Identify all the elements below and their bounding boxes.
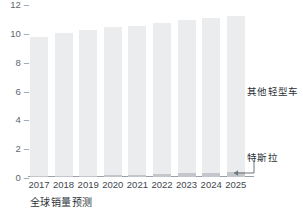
bar-group [178,20,196,177]
x-axis-tick-label: 2025 [224,179,248,190]
x-axis-tick-label: 2020 [101,179,125,190]
bar-group [202,18,220,177]
bar-segment-tesla [30,176,48,177]
bar-group [227,16,245,177]
bar-segment-other-light-vehicles [178,20,196,174]
bar-segment-tesla [55,176,73,177]
y-axis-tick-mark: – [24,27,29,38]
bar-group [104,27,122,177]
y-axis-tick-2: 2– [15,143,29,154]
x-axis-tick-label: 2018 [52,179,76,190]
x-axis-tick-label: 2024 [199,179,223,190]
tesla-leader-line-icon [228,160,258,178]
bar-segment-tesla [79,176,97,177]
bar-segment-other-light-vehicles [55,33,73,176]
series-label-other-light-vehicles: 其他轻型车 [247,84,299,98]
bar-group [30,37,48,177]
y-axis-tick-8: 8– [15,56,29,67]
bar-group [55,33,73,177]
y-axis-tick-4: 4– [15,114,29,125]
y-axis-tick-value: 10 [10,27,21,38]
y-axis-tick-mark: – [24,143,29,154]
bar-group [153,23,171,177]
chart-container: 0–2–4–6–8–10–12– 全球销量预测 其他轻型车 特斯拉 201720… [0,0,303,212]
y-axis-tick-mark: – [24,85,29,96]
plot-area [30,4,252,177]
bar-segment-other-light-vehicles [202,18,220,172]
bar-segment-tesla [178,173,196,177]
bar-segment-tesla [128,175,146,177]
bar-segment-tesla [104,175,122,177]
x-axis-title: 全球销量预测 [30,194,92,209]
x-axis-tick-label: 2022 [150,179,174,190]
bar-segment-other-light-vehicles [30,37,48,175]
bar-group [79,30,97,177]
bar-segment-other-light-vehicles [128,26,146,175]
x-axis-tick-label: 2021 [125,179,149,190]
y-axis-tick-12: 12– [10,0,29,10]
y-axis-tick-value: 8 [15,56,20,67]
x-axis-tick-label: 2023 [175,179,199,190]
y-axis-tick-mark: – [24,56,29,67]
y-axis-tick-value: 6 [15,85,20,96]
y-axis-tick-value: 0 [15,172,20,183]
bar-segment-tesla [202,173,220,177]
bar-segment-other-light-vehicles [227,16,245,172]
y-axis-tick-mark: – [24,0,29,10]
y-axis-tick-value: 2 [15,143,20,154]
x-axis-tick-label: 2017 [27,179,51,190]
x-axis-tick-label: 2019 [76,179,100,190]
bar-group [128,26,146,177]
y-axis-tick-value: 4 [15,114,20,125]
y-axis-tick-6: 6– [15,85,29,96]
bar-segment-other-light-vehicles [153,23,171,174]
bar-segment-other-light-vehicles [104,27,122,175]
y-axis-tick-mark: – [24,114,29,125]
y-axis-tick-10: 10– [10,27,29,38]
y-axis-tick-value: 12 [10,0,21,10]
bar-segment-other-light-vehicles [79,30,97,176]
y-axis-tick-labels: 0–2–4–6–8–10–12– [0,0,29,212]
bar-segment-tesla [153,174,171,177]
